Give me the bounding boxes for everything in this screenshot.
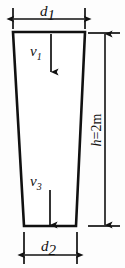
figure-container: d1 d2 h=2m v1 v3 [0,0,125,268]
dimension-d2: d2 [24,232,77,264]
duct-diagram: d1 d2 h=2m v1 v3 [0,0,125,268]
dimension-d1: d1 [13,3,85,29]
height-label: h=2m [89,114,104,147]
duct-outline [13,32,85,226]
d1-label: d1 [40,3,55,23]
dimension-height: h=2m [88,33,120,226]
duct-shape [13,32,85,226]
